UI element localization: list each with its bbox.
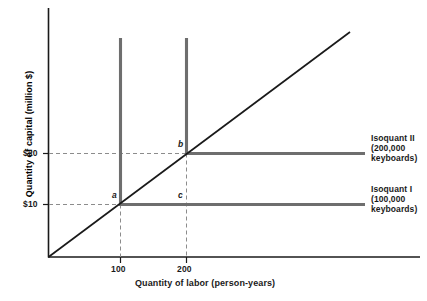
point-label-a: a <box>112 190 117 200</box>
x-axis-title: Quantity of labor (person-years) <box>135 278 275 289</box>
y-axis-title-wrap: Quantity of capital (million $) <box>18 54 36 214</box>
point-label-b: b <box>178 139 183 149</box>
legend-isoquant-1-line2: (100,000 <box>371 194 417 204</box>
legend-isoquant-2-line2: (200,000 <box>371 143 417 153</box>
legend-isoquant-2-line1: Isoquant II <box>371 133 417 143</box>
y-tick-label-20: $20 <box>23 148 38 158</box>
legend-isoquant-1-line3: keyboards) <box>371 204 417 214</box>
expansion-path-ray <box>49 32 351 257</box>
x-tick-label-200: 200 <box>177 264 192 274</box>
point-label-c: c <box>178 190 183 200</box>
legend-isoquant-2-line3: keyboards) <box>371 153 417 163</box>
legend-isoquant-1-line1: Isoquant I <box>371 184 417 194</box>
y-axis-title: Quantity of capital (million $) <box>24 71 34 198</box>
legend-isoquant-2: Isoquant II (200,000 keyboards) <box>371 133 417 163</box>
legend-isoquant-1: Isoquant I (100,000 keyboards) <box>371 184 417 214</box>
isoquant-chart-figure: Quantity of capital (million $) Quantity… <box>0 0 427 301</box>
chart-plot-area <box>0 0 427 301</box>
x-tick-label-100: 100 <box>111 264 126 274</box>
y-tick-label-10: $10 <box>23 199 38 209</box>
